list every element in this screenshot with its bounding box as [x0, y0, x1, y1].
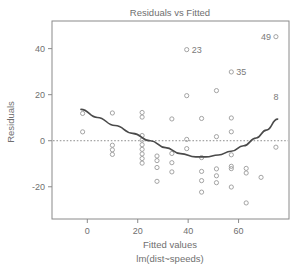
x-axis-sublabel: lm(dist~speeds): [136, 253, 203, 264]
point-label: 49: [261, 32, 271, 42]
y-tick-label: 0: [40, 136, 45, 146]
chart-container: Residuals vs Fitted -2002040 0204060 492…: [0, 0, 305, 273]
y-tick-label: -20: [32, 182, 45, 192]
point-label: 35: [236, 67, 246, 77]
residuals-vs-fitted-chart: Residuals vs Fitted -2002040 0204060 492…: [0, 0, 305, 273]
point-label: 8: [273, 92, 278, 102]
y-tick-label: 20: [35, 90, 45, 100]
x-tick-label: 0: [85, 226, 90, 236]
x-tick-label: 60: [234, 226, 244, 236]
y-axis-label: Residuals: [5, 101, 16, 143]
x-tick-label: 40: [183, 226, 193, 236]
x-axis-label: Fitted values: [143, 239, 197, 250]
x-tick-label: 20: [133, 226, 143, 236]
point-label: 23: [192, 45, 202, 55]
y-tick-label: 40: [35, 44, 45, 54]
chart-title: Residuals vs Fitted: [130, 7, 210, 18]
